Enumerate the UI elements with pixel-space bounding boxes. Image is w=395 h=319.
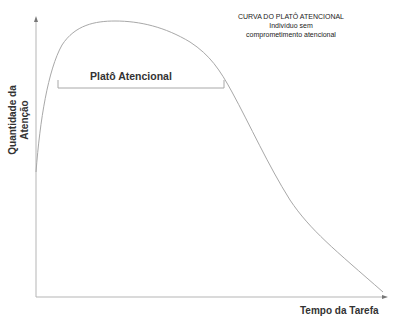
x-axis-label: Tempo da Tarefa [300, 305, 379, 316]
attention-curve [36, 21, 383, 292]
plateau-label: Platô Atencional [90, 70, 172, 82]
title-line-1: CURVA DO PLATÔ ATENCIONAL [226, 12, 356, 21]
title-line-2: Indivíduo sem [226, 21, 356, 30]
x-axis-arrow-icon [382, 295, 388, 299]
y-axis-label-line-2: Atenção [19, 65, 31, 175]
y-axis-label: Quantidade da Atenção [7, 65, 31, 175]
y-axis-arrow-icon [34, 16, 38, 22]
attention-curve-chart [0, 0, 395, 319]
chart-title: CURVA DO PLATÔ ATENCIONAL Indivíduo sem … [226, 12, 356, 39]
title-line-3: comprometimento atencional [226, 30, 356, 39]
y-axis-label-line-1: Quantidade da [7, 65, 19, 175]
